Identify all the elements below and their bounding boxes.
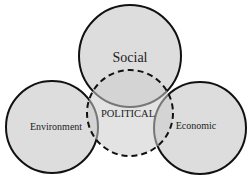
environment-label: Environment [30,121,82,132]
circles [6,5,246,174]
economic-label: Economic [176,120,217,131]
social-label: Social [113,50,148,65]
venn-diagram: Social Environment Economic POLITICAL [0,0,248,178]
political-label: POLITICAL [101,108,155,119]
